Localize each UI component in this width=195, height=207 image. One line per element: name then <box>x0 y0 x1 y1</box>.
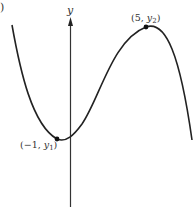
local-maximum-label: (5, y2) <box>131 13 160 25</box>
cubic-graph-figure: ) y (5, y2) (−1, y1) <box>0 0 195 207</box>
graph-svg <box>0 0 195 207</box>
cubic-curve <box>12 25 192 140</box>
max-label-open: (5, <box>131 12 147 23</box>
local-maximum-point <box>144 25 149 30</box>
min-label-open: (−1, <box>20 139 44 150</box>
part-label-paren: ) <box>0 2 4 13</box>
y-axis-label: y <box>67 5 73 16</box>
max-label-close: ) <box>157 12 161 23</box>
y-axis-arrow-icon <box>68 17 73 26</box>
local-minimum-label: (−1, y1) <box>20 140 57 152</box>
min-label-close: ) <box>54 139 58 150</box>
